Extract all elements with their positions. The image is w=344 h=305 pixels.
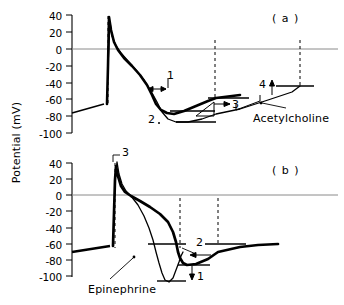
panel-a-tick-label: 40 — [28, 10, 62, 22]
panel-b-annotation-2: 2 — [196, 236, 203, 249]
panel-b-tick-label: -40 — [28, 223, 62, 235]
panel-a-trace-acetylcholine — [108, 22, 300, 122]
panel-a-annotation-1: 1 — [167, 69, 174, 82]
panel-a-event-lines — [108, 16, 300, 104]
panel-b-annotation-3-leader — [113, 155, 120, 162]
panel-b-tick-label: 20 — [28, 174, 62, 186]
panel-b-drug-leader — [110, 256, 135, 279]
panel-b-tick-label: 40 — [28, 158, 62, 170]
panel-a-annotation-3: 3 — [232, 98, 239, 111]
panel-a-tick-label: -40 — [28, 78, 62, 90]
panel-a-dot-2 — [158, 122, 160, 124]
panel-b-tick-label: -20 — [28, 206, 62, 218]
panel-b-annotation-3: 3 — [122, 146, 129, 159]
panel-a-drug-leader — [260, 102, 286, 108]
panel-b-measure-2 — [182, 248, 211, 258]
panel-a-tick-label: -20 — [28, 61, 62, 73]
panel-b-tick-label: -100 — [24, 271, 62, 283]
panel-a-tick-label: -80 — [28, 111, 62, 123]
panel-a-trace-control — [107, 17, 240, 114]
panel-a-tag: ( a ) — [272, 12, 299, 25]
panel-b-tick-label: -60 — [28, 239, 62, 251]
panel-b-annotation-1: 1 — [197, 270, 204, 283]
panel-a-measure-1 — [148, 78, 168, 92]
panel-b-tick-label: -80 — [28, 255, 62, 267]
panel-a-tick-marks — [66, 15, 72, 133]
panel-b-tick-marks — [66, 163, 72, 276]
panel-a-annotation-4: 4 — [259, 78, 266, 91]
panel-a-baseline-segment — [72, 104, 104, 113]
panel-a-annotation-2: 2 — [148, 113, 155, 126]
y-axis-label: Potential (mV) — [10, 88, 23, 198]
panel-b-tick-label: 0 — [28, 190, 62, 202]
panel-b-measure-1 — [190, 266, 195, 280]
panel-b-baseline-segment — [72, 246, 110, 252]
panel-b-tag: ( b ) — [272, 164, 300, 177]
panel-a-tick-label: -60 — [28, 94, 62, 106]
panel-b-trace-epinephrine — [115, 162, 183, 282]
panel-a-measure-4 — [236, 80, 275, 110]
panel-a-drug-label: Acetylcholine — [253, 112, 329, 125]
panel-a-tick-label: 0 — [28, 44, 62, 56]
panel-b-trace-control — [113, 166, 278, 265]
panel-b-drug-label: Epinephrine — [88, 283, 156, 296]
panel-a-tick-label: 20 — [28, 27, 62, 39]
panel-a-tick-label: -100 — [24, 128, 62, 140]
